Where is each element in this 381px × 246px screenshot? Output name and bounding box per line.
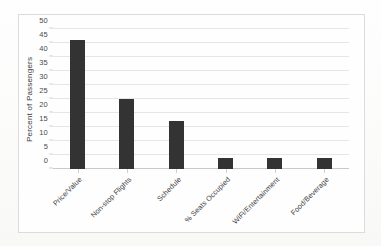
bar[interactable]: [70, 40, 85, 169]
x-label-slot: Schedule: [152, 173, 201, 233]
bar[interactable]: [317, 158, 332, 169]
y-axis-title: Percent of Passengers: [25, 29, 34, 169]
y-tick-label: 15: [39, 114, 48, 123]
bar[interactable]: [218, 158, 233, 169]
y-tick-label: 35: [39, 58, 48, 67]
x-label-slot: WiFi/Entertainment: [250, 173, 299, 233]
y-tick-label: 30: [39, 72, 48, 81]
y-tick-label: 0: [44, 156, 48, 165]
bar[interactable]: [267, 158, 282, 169]
bar-series: [53, 29, 349, 169]
bar-slot: [53, 29, 102, 169]
y-tick-label: 25: [39, 86, 48, 95]
y-tick-label: 50: [39, 16, 48, 25]
y-tick-label: 20: [39, 100, 48, 109]
x-label-slot: % Seats Occupied: [201, 173, 250, 233]
y-tick-label: 40: [39, 44, 48, 53]
chart-frame: Percent of Passengers 051015202530354045…: [18, 14, 365, 233]
bar-slot: [300, 29, 349, 169]
x-axis-label: Schedule: [155, 175, 183, 203]
bar-slot: [201, 29, 250, 169]
x-label-slot: Food/Beverage: [300, 173, 349, 233]
y-tick-label: 10: [39, 128, 48, 137]
bar-slot: [102, 29, 151, 169]
bar[interactable]: [169, 121, 184, 169]
bar-slot: [250, 29, 299, 169]
y-tick-label: 45: [39, 30, 48, 39]
x-label-slot: Non-stop Flights: [102, 173, 151, 233]
y-tick-label: 5: [44, 142, 48, 151]
plot-area: 05101520253035404550: [53, 29, 349, 169]
x-label-slot: Price/Value: [53, 173, 102, 233]
bar[interactable]: [119, 99, 134, 169]
bar-slot: [152, 29, 201, 169]
x-axis-label: Price/Value: [51, 175, 84, 208]
x-axis-labels: Price/ValueNon-stop FlightsSchedule% Sea…: [53, 173, 349, 233]
